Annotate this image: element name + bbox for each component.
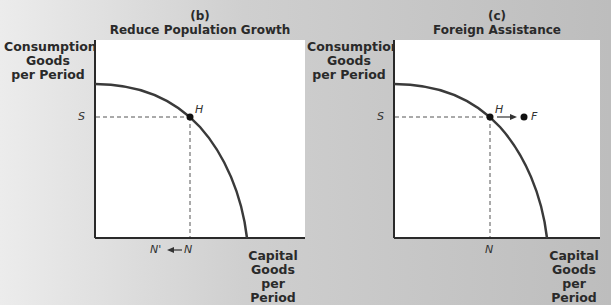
- panel-b-x-axis-label: Capital Goods per Period: [240, 249, 306, 305]
- label-f: F: [531, 110, 537, 123]
- x-label-line: per Period: [240, 277, 306, 305]
- ppf-curve: [394, 84, 547, 238]
- arrowhead-icon: [510, 114, 517, 120]
- x-label-line: per Period: [541, 277, 607, 305]
- label-s: S: [377, 110, 384, 123]
- label-s: S: [78, 110, 85, 123]
- label-h: H: [495, 103, 503, 116]
- label-h: H: [195, 103, 203, 116]
- x-label-line: Capital: [240, 249, 306, 263]
- panel-c: (c) Foreign Assistance Consumption Goods…: [305, 0, 611, 298]
- point-h: [487, 114, 494, 121]
- point-h: [187, 114, 194, 121]
- panel-b: (b) Reduce Population Growth Consumption…: [0, 0, 305, 298]
- ppf-curve: [95, 84, 247, 238]
- x-label-line: Goods: [240, 263, 306, 277]
- x-label-line: Capital: [541, 249, 607, 263]
- label-n-prime: N': [150, 243, 161, 256]
- point-f: [521, 114, 528, 121]
- label-n: N: [184, 243, 192, 256]
- panel-c-x-axis-label: Capital Goods per Period: [541, 249, 607, 305]
- x-label-line: Goods: [541, 263, 607, 277]
- arrowhead-icon: [167, 247, 174, 253]
- label-n: N: [485, 243, 493, 256]
